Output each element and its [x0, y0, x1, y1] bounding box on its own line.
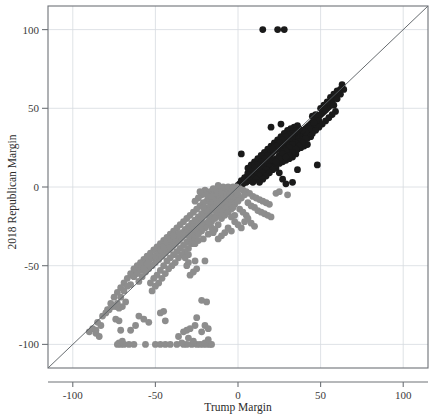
data-point: [183, 262, 190, 269]
data-point: [142, 341, 149, 348]
data-point: [314, 162, 321, 169]
data-point: [117, 294, 124, 301]
data-point: [96, 333, 103, 340]
data-point: [197, 188, 204, 195]
data-point: [215, 236, 222, 243]
data-point: [162, 317, 169, 324]
data-point: [198, 328, 205, 335]
data-point: [202, 258, 209, 265]
data-point: [167, 341, 174, 348]
data-point: [187, 272, 194, 279]
scatter-plot-figure: -100-50050100 -100-50050100 Trump Margin…: [0, 0, 439, 420]
data-point: [144, 261, 151, 268]
data-point: [193, 314, 200, 321]
data-point: [117, 327, 124, 334]
data-point: [200, 204, 207, 211]
data-point: [230, 204, 237, 211]
data-point: [205, 325, 212, 332]
data-point: [251, 223, 258, 230]
plot-canvas: -100-50050100 -100-50050100 Trump Margin…: [0, 0, 439, 420]
data-point: [273, 158, 280, 165]
x-tick-label: 0: [235, 389, 241, 401]
data-point: [178, 339, 185, 346]
data-point: [256, 179, 263, 186]
data-point: [259, 26, 266, 33]
data-point: [268, 214, 275, 221]
data-point: [145, 319, 152, 326]
data-point: [132, 322, 139, 329]
y-tick-label: -100: [19, 338, 40, 350]
data-point: [294, 166, 301, 173]
y-tick-label: 50: [28, 102, 40, 114]
data-point: [200, 236, 207, 243]
y-tick-label: 0: [34, 181, 40, 193]
data-point: [157, 310, 164, 317]
data-point: [235, 198, 242, 205]
y-tick-label: 100: [23, 24, 40, 36]
data-point: [122, 299, 129, 306]
data-point: [289, 179, 296, 186]
data-point: [278, 121, 285, 128]
data-point: [198, 220, 205, 227]
data-point: [274, 26, 281, 33]
data-point: [276, 188, 283, 195]
x-tick-label: 100: [395, 389, 412, 401]
data-point: [170, 232, 177, 239]
data-point: [238, 151, 245, 158]
data-point: [281, 26, 288, 33]
data-point: [203, 299, 210, 306]
data-point: [208, 193, 215, 200]
data-point: [266, 201, 273, 208]
data-point: [245, 171, 252, 178]
data-point: [284, 191, 291, 198]
y-tick-label: -50: [24, 260, 39, 272]
data-point: [205, 218, 212, 225]
data-point: [192, 198, 199, 205]
data-point: [175, 333, 182, 340]
data-point: [193, 265, 200, 272]
data-point: [119, 338, 126, 345]
data-point: [116, 317, 123, 324]
x-axis-title: Trump Margin: [204, 401, 272, 414]
data-point: [210, 185, 217, 192]
data-point: [330, 102, 337, 109]
data-point: [279, 176, 286, 183]
data-point: [238, 225, 245, 232]
data-point: [249, 179, 256, 186]
data-point: [312, 111, 319, 118]
data-point: [210, 204, 217, 211]
x-tick-label: 50: [315, 389, 327, 401]
data-point: [111, 294, 118, 301]
data-point: [192, 258, 199, 265]
x-tick-label: -100: [63, 389, 84, 401]
data-point: [86, 328, 93, 335]
data-point: [205, 336, 212, 343]
data-point: [131, 341, 138, 348]
data-point: [127, 327, 134, 334]
data-point: [97, 322, 104, 329]
data-point: [149, 287, 156, 294]
data-point: [210, 229, 217, 236]
data-point: [311, 119, 318, 126]
y-axis-title: 2018 Republican Margin: [6, 134, 19, 249]
data-point: [283, 154, 290, 161]
data-point: [185, 335, 192, 342]
data-point: [268, 124, 275, 131]
x-tick-label: -50: [148, 389, 163, 401]
data-point: [180, 328, 187, 335]
data-point: [340, 86, 347, 93]
